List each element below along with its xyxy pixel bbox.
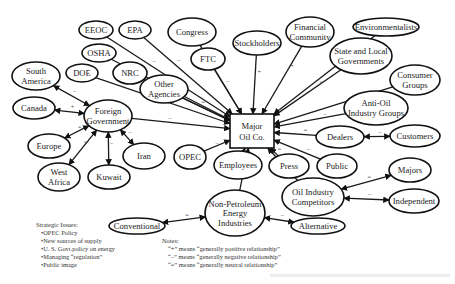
node-public[interactable]: Public	[317, 154, 357, 178]
node-westafrica[interactable]: WestAfrica	[38, 163, 80, 191]
node-label: Public	[326, 161, 348, 171]
node-label: Environmentalists	[355, 22, 418, 32]
node-label: Industries	[218, 218, 253, 228]
node-label: Iran	[137, 151, 152, 161]
edge-foreign-kuwait	[108, 132, 109, 165]
strategic-issue-item: OPEC Policy	[41, 229, 115, 237]
node-label: Canada	[21, 103, 47, 113]
node-label: Africa	[48, 177, 70, 187]
node-label: Stockholders	[235, 38, 281, 48]
node-antioil[interactable]: Anti-OilIndustry Groups	[344, 91, 408, 125]
notes-title: Notes:	[162, 237, 281, 245]
relationship-sign: –	[72, 88, 77, 94]
node-iran[interactable]: Iran	[123, 143, 165, 169]
edge-competitors-independent	[344, 198, 389, 200]
node-conventional[interactable]: Conventional	[109, 218, 165, 234]
node-label: America	[21, 76, 51, 86]
node-osha[interactable]: OSHA	[82, 44, 116, 62]
node-label: Foreign	[95, 106, 122, 116]
strategic-issue-item: New sources of supply	[41, 237, 115, 245]
node-label: Competitors	[292, 197, 335, 207]
strategic-issue-item: U. S. Govt.policy on energy	[41, 245, 115, 253]
node-label: FTC	[200, 54, 216, 64]
node-label: DOE	[73, 68, 91, 78]
center-label-line2: Oil Co.	[239, 132, 264, 142]
node-label: Community	[289, 32, 331, 42]
node-canada[interactable]: Canada	[13, 97, 55, 119]
node-kuwait[interactable]: Kuwait	[88, 165, 130, 189]
edge-ftc-to-major	[214, 69, 241, 114]
node-opec[interactable]: OPEC	[174, 145, 206, 169]
node-label: OSHA	[87, 48, 111, 58]
node-financial[interactable]: FinancialCommunity	[286, 17, 334, 47]
node-press[interactable]: Press	[269, 154, 309, 178]
node-employees[interactable]: Employees	[214, 151, 262, 179]
node-environmentalists[interactable]: Environmentalists	[353, 18, 419, 36]
edge-foreign-westafrica	[69, 130, 97, 165]
node-foreign[interactable]: ForeignGovernment	[84, 100, 132, 132]
node-statelocal[interactable]: State and LocalGovernments	[330, 38, 392, 74]
center-node-major-oil-co[interactable]: Major Oil Co.	[230, 114, 274, 148]
relationship-sign: –	[128, 129, 133, 135]
node-label: Conventional	[114, 221, 161, 231]
node-label: Press	[280, 161, 299, 171]
node-label: Oil Industry	[292, 187, 334, 197]
strategic-issues-title: Strategic Issues:	[36, 221, 115, 229]
node-label: State and Local	[334, 46, 388, 56]
note-item: “–” means “generally negative relationsh…	[168, 253, 281, 261]
node-label: South	[26, 66, 47, 76]
relationship-sign: –	[280, 212, 285, 218]
node-ftc[interactable]: FTC	[191, 48, 225, 70]
node-label: Dealers	[327, 132, 354, 142]
node-label: Alternative	[299, 221, 338, 231]
node-stockholders[interactable]: Stockholders	[233, 31, 281, 55]
node-epa[interactable]: EPA	[119, 21, 151, 39]
relationship-sign: –	[367, 191, 372, 197]
node-doe[interactable]: DOE	[66, 64, 98, 82]
node-majors[interactable]: Majors	[389, 158, 431, 182]
node-label: Government	[87, 116, 131, 126]
node-nrc[interactable]: NRC	[113, 62, 147, 84]
node-alternative[interactable]: Alternative	[291, 218, 345, 234]
node-label: Congress	[176, 27, 209, 37]
node-label: West	[51, 167, 69, 177]
relationship-sign: +	[290, 63, 294, 69]
note-item: “+” means “generally positive relationsh…	[168, 245, 281, 253]
relationship-sign: –	[306, 146, 311, 152]
relationship-sign: –	[378, 129, 383, 135]
center-label-line1: Major	[241, 121, 262, 131]
edge-competitors-majors	[341, 175, 391, 189]
edge-financial-to-major	[262, 46, 302, 114]
relationship-sign: =	[278, 146, 282, 152]
node-dealers[interactable]: Dealers	[316, 126, 364, 148]
relationship-sign: –	[176, 57, 181, 63]
node-label: Employees	[219, 160, 258, 170]
edge-nonpetro-alternative	[264, 218, 294, 223]
relationship-sign: –	[109, 140, 114, 146]
faded-caption	[270, 274, 450, 277]
node-nonpetro[interactable]: Non-PetroleumEnergyIndustries	[205, 190, 265, 236]
edge-nonpetro-conventional	[162, 217, 205, 223]
node-label: Industry Groups	[348, 108, 405, 118]
node-label: Non-Petroleum	[209, 199, 262, 209]
node-customers[interactable]: Customers	[390, 125, 440, 147]
node-southamerica[interactable]: SouthAmerica	[12, 62, 60, 90]
node-label: Energy	[223, 208, 248, 218]
relationship-sign: =	[201, 99, 205, 105]
node-eeoc[interactable]: EEOC	[79, 21, 113, 39]
relationship-sign: =	[304, 127, 308, 133]
node-label: NRC	[121, 68, 139, 78]
edge-foreign-europe	[65, 126, 89, 138]
node-consumer[interactable]: ConsumerGroups	[390, 65, 440, 95]
node-europe[interactable]: Europe	[28, 134, 70, 158]
node-label: Europe	[37, 141, 62, 151]
node-independent[interactable]: Independent	[389, 189, 439, 213]
node-other[interactable]: OtherAgencies	[140, 75, 188, 103]
node-congress[interactable]: Congress	[168, 18, 216, 46]
node-label: Customers	[397, 131, 434, 141]
node-label: Other	[154, 79, 174, 89]
relationship-sign: –	[322, 111, 327, 117]
node-competitors[interactable]: Oil IndustryCompetitors	[282, 178, 344, 216]
relationship-sign: =	[320, 79, 324, 85]
node-label: Consumer	[397, 70, 432, 80]
